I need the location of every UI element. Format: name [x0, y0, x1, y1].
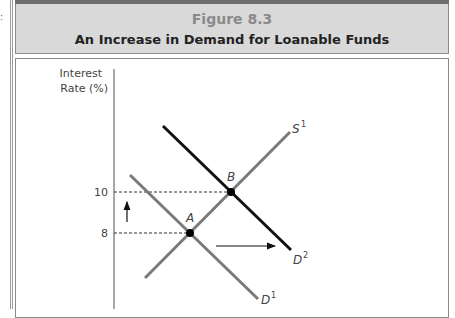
supply-curve-s1: [145, 132, 290, 278]
point-a-label: A: [185, 211, 194, 225]
d2-superscript: 2: [303, 251, 308, 260]
s1-label: S: [292, 122, 300, 136]
point-b-marker: [227, 188, 235, 196]
tick-8: 8: [101, 227, 108, 240]
y-axis-label-line2: Rate (%): [60, 82, 108, 95]
s1-superscript: 1: [301, 120, 306, 129]
point-a-marker: [186, 229, 194, 237]
d1-label: D: [261, 293, 270, 307]
point-b-label: B: [227, 170, 235, 184]
demand-curve-d1: [130, 175, 258, 299]
tick-10: 10: [94, 186, 108, 199]
d2-label: D: [293, 253, 302, 267]
demand-curve-d2: [163, 126, 291, 250]
y-axis-label-line1: Interest: [60, 67, 103, 80]
d1-superscript: 1: [271, 291, 276, 300]
